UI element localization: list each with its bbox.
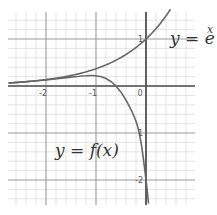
x-tick-label: -2 bbox=[39, 89, 47, 98]
y-tick-label: 1 bbox=[138, 35, 143, 44]
x-tick-label: 0 bbox=[137, 89, 142, 98]
f-label: y = f(x) bbox=[54, 140, 119, 160]
exp-label-superscript: x bbox=[207, 23, 214, 36]
minor-grid bbox=[8, 12, 195, 205]
y-tick-label: -2 bbox=[135, 176, 143, 185]
y-tick-label: 1 bbox=[138, 129, 143, 138]
x-tick-label: -1 bbox=[89, 89, 97, 98]
function-plot: -2-1011-2 y = e x y = f(x) bbox=[0, 0, 217, 215]
